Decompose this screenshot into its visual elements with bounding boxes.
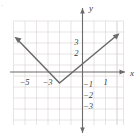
coordinate-plane: y x −5 −3 1 3 2 −1 −2 −3: [0, 0, 136, 135]
graph-figure: ·: [0, 0, 136, 135]
ytick-label-3: 3: [73, 37, 78, 47]
grid-lines: [14, 21, 124, 125]
corner-mark: ·: [1, 2, 3, 10]
absolute-value-curve: [14, 33, 119, 83]
x-axis-label: x: [129, 68, 134, 78]
ytick-label-neg1: −1: [83, 79, 93, 89]
xtick-label-neg5: −5: [20, 77, 30, 87]
ytick-label-neg3: −3: [83, 101, 93, 111]
xtick-label-1: 1: [103, 77, 107, 87]
ytick-label-2: 2: [74, 48, 79, 58]
xtick-label-neg3: −3: [43, 77, 53, 87]
ytick-label-neg2: −2: [83, 90, 94, 100]
y-axis-label: y: [88, 3, 93, 13]
x-axis: [10, 70, 125, 75]
y-axis: [80, 8, 85, 133]
